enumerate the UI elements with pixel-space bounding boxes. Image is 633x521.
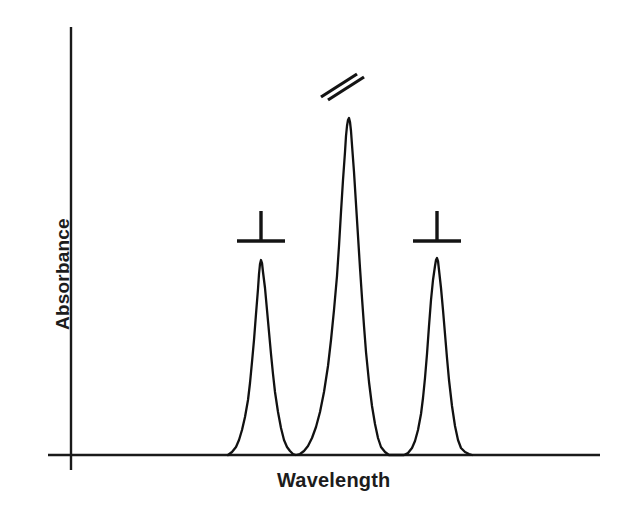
- spectrum-plot: [0, 0, 633, 521]
- x-axis-label: Wavelength: [277, 469, 391, 492]
- perpendicular-left-marker: [237, 211, 285, 241]
- absorbance-curve: [228, 118, 472, 455]
- y-axis-label: Absorbance: [52, 218, 74, 330]
- parallel-center-marker: [321, 74, 364, 100]
- spectrum-figure: Absorbance Wavelength: [0, 0, 633, 521]
- perpendicular-right-marker: [413, 211, 461, 241]
